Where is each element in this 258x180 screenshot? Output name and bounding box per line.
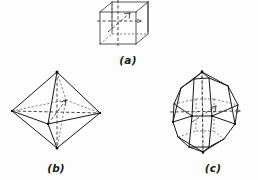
dodeca-vertex-right [234,123,236,125]
octa-vertex-bottom [56,147,59,150]
octa-vertex-top [56,71,59,74]
figure-a-label: (a) [119,54,136,66]
octa-vertex-front [47,123,49,125]
figure-canvas: (a) [0,0,258,180]
crystal-forms-figure-plate: (a) [0,0,258,180]
dodeca-vertex-front-right [211,115,213,117]
octa-vertex-right [99,112,101,114]
octa-vertex-left [11,110,13,112]
figure-b-label: (b) [47,162,65,174]
dodeca-vertex-top [201,71,204,74]
dodeca-vertex-left [172,121,174,123]
plate-background [0,0,258,180]
dodeca-vertex-bottom [202,151,205,154]
dodeca-vertex-front-left [191,115,193,117]
figure-c-label: (c) [205,162,221,174]
